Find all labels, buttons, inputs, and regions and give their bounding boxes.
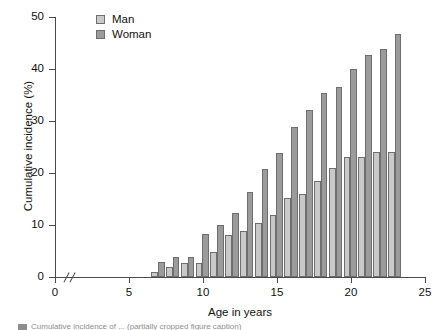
bar-group-container: [0, 0, 447, 330]
bar-man-age-15: [270, 215, 277, 277]
bar-man-age-13: [240, 231, 247, 277]
legend-swatch-man-icon: [96, 15, 105, 24]
bar-man-age-16: [284, 198, 291, 277]
bar-woman-age-7: [158, 262, 165, 277]
bar-woman-age-22: [380, 49, 387, 277]
legend-item-woman: Woman: [96, 28, 151, 41]
bar-man-age-12: [225, 235, 232, 277]
bar-man-age-22: [373, 152, 380, 277]
bar-woman-age-15: [276, 153, 283, 277]
bar-man-age-18: [314, 181, 321, 277]
legend-label-man: Man: [112, 14, 134, 26]
bar-woman-age-16: [291, 127, 298, 277]
chart-legend: Man Woman: [96, 13, 151, 43]
bar-man-age-8: [166, 267, 173, 277]
bar-woman-age-20: [350, 69, 357, 277]
bar-man-age-17: [299, 194, 306, 277]
bar-woman-age-9: [188, 257, 195, 277]
figure-caption-text: Cumulative incidence of ... (partially c…: [31, 322, 241, 330]
figure-caption: Cumulative incidence of ... (partially c…: [18, 322, 438, 330]
bar-man-age-10: [196, 263, 203, 277]
bar-man-age-11: [210, 252, 217, 277]
legend-swatch-woman-icon: [96, 30, 105, 39]
x-axis-title: Age in years: [55, 306, 425, 318]
bar-man-age-19: [329, 168, 336, 277]
figure-container: 01020304050 0510152025 Cumulative incide…: [0, 0, 447, 330]
bar-woman-age-8: [173, 257, 180, 277]
legend-label-woman: Woman: [112, 29, 151, 41]
bar-woman-age-11: [217, 225, 224, 277]
bar-man-age-20: [344, 157, 351, 277]
bar-woman-age-10: [202, 234, 209, 277]
legend-item-man: Man: [96, 13, 151, 26]
bar-man-age-23: [388, 152, 395, 277]
bar-woman-age-21: [365, 55, 372, 277]
bar-man-age-21: [358, 157, 365, 277]
y-axis-title: Cumulative incidence (%): [22, 36, 34, 256]
bar-man-age-14: [255, 223, 262, 277]
bar-woman-age-12: [232, 213, 239, 277]
bar-woman-age-18: [321, 93, 328, 277]
figure-caption-badge-icon: [18, 324, 27, 330]
bar-woman-age-13: [247, 192, 254, 277]
chart-plot-area: 01020304050 0510152025 Cumulative incide…: [0, 0, 447, 330]
bar-woman-age-19: [336, 87, 343, 277]
bar-woman-age-23: [395, 34, 402, 277]
bar-man-age-9: [181, 263, 188, 277]
bar-woman-age-14: [262, 169, 269, 277]
bar-woman-age-17: [306, 110, 313, 277]
bar-man-age-7: [151, 272, 158, 277]
